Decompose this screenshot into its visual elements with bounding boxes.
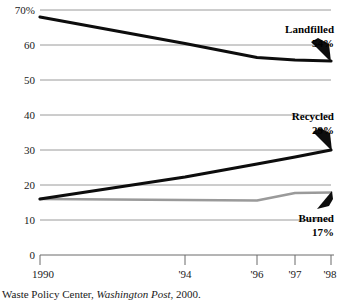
x-axis — [40, 255, 334, 265]
y-label-60: 60 — [24, 39, 36, 51]
caption-suffix: , 2000. — [170, 288, 200, 300]
landfilled-value: 54% — [312, 37, 334, 49]
waste-disposal-line-chart: 70% 60 50 40 30 20 10 0 1990 '94 '96 '97… — [0, 0, 337, 282]
x-label-1990: 1990 — [32, 268, 55, 280]
burned-value: 17% — [312, 226, 334, 238]
recycled-value: 29% — [312, 124, 334, 136]
gridlines — [40, 10, 331, 220]
y-axis-labels: 70% 60 50 40 30 20 10 0 — [15, 4, 36, 261]
chart-svg: 70% 60 50 40 30 20 10 0 1990 '94 '96 '97… — [0, 0, 337, 282]
x-axis-labels: 1990 '94 '96 '97 '98 — [32, 268, 337, 280]
landfilled-label: Landfilled — [285, 23, 334, 35]
caption-prefix: Waste Policy Center, — [2, 288, 97, 300]
y-label-50: 50 — [24, 74, 36, 86]
recycled-label: Recycled — [292, 110, 334, 122]
x-label-97: '97 — [289, 268, 302, 280]
chart-page: 70% 60 50 40 30 20 10 0 1990 '94 '96 '97… — [0, 0, 337, 307]
y-label-30: 30 — [24, 144, 36, 156]
series-line-recycled — [40, 150, 331, 199]
x-label-96: '96 — [251, 268, 264, 280]
chart-source-caption: Waste Policy Center, Washington Post, 20… — [2, 288, 335, 301]
y-label-70: 70% — [15, 4, 35, 16]
y-label-20: 20 — [24, 179, 36, 191]
caption-source-name: Washington Post — [97, 288, 171, 300]
burned-label: Burned — [299, 212, 334, 224]
y-label-40: 40 — [24, 109, 36, 121]
y-label-10: 10 — [24, 214, 36, 226]
x-label-94: '94 — [179, 268, 192, 280]
x-label-98: '98 — [324, 268, 337, 280]
y-label-0: 0 — [30, 249, 36, 261]
